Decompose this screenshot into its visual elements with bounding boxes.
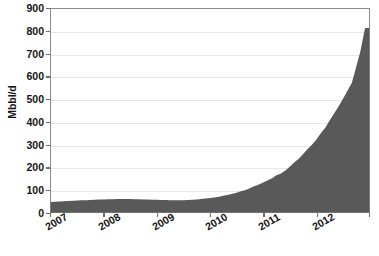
area-fill-path [51,28,370,213]
chart-container: Mbbl/d 900 800 700 600 500 400 300 200 1… [0,0,379,256]
x-tick-mark [369,213,370,217]
